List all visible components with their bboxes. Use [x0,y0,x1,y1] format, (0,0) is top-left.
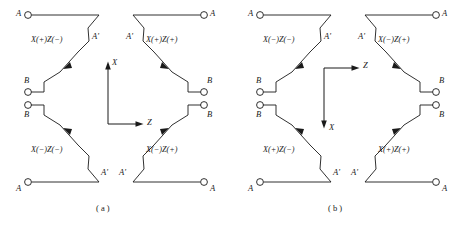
terminal-label-aprime-top-right: A' [358,32,365,41]
terminal-circle-b-tl [25,89,32,96]
terminal-circle-b-br [201,102,208,109]
terminal-circle-b-tl [257,89,264,96]
quadrant-label-top-left: X(−)Z(−) [263,36,295,44]
panel-b-drawing [232,0,464,200]
terminal-label-a-bottom-right: A [210,184,215,193]
quadrant-label-bottom-right: X(+)Z(+) [378,146,410,154]
terminal-label-a-bottom-left: A [16,184,21,193]
wire-path-tl [31,15,99,92]
terminal-circle-a-tl [25,12,32,19]
wire-path-tl [263,15,331,92]
panel-a: A A' A A' B B B B A A' A A' X(+)Z(−) X(+… [0,0,232,225]
terminal-label-b-mid-right-upper: B [207,76,212,85]
terminal-circle-a-bl [257,179,264,186]
axis-z-arrowhead [136,121,144,127]
terminal-circle-a-tr [433,12,440,19]
terminal-label-b-mid-right-lower: B [439,110,444,119]
terminal-label-b-mid-left-upper: B [24,76,29,85]
wire-path-br [133,105,201,182]
panel-b: A A' A A' B B B B A A' A A' X(−)Z(−) X(−… [232,0,464,225]
terminal-label-aprime-bottom-right: A' [119,168,126,177]
axis-x-arrowhead [105,62,111,70]
axis-x-arrowhead [321,121,327,129]
terminal-label-a-bottom-left: A [248,184,253,193]
terminal-label-b-mid-left-lower: B [24,110,29,119]
terminal-label-aprime-bottom-left: A' [101,168,108,177]
terminal-label-aprime-top-right: A' [126,32,133,41]
terminal-label-aprime-bottom-left: A' [333,168,340,177]
panel-a-caption: ( a ) [96,203,110,213]
axis-label-z: Z [363,61,368,70]
wire-path-tr [365,15,433,92]
wire-path-bl [31,105,99,182]
wire-path-tr [133,15,201,92]
wire-path-bl [263,105,331,182]
quadrant-label-bottom-left: X(+)Z(−) [263,146,295,154]
terminal-circle-b-br [433,102,440,109]
terminal-label-aprime-top-left: A' [324,32,331,41]
terminal-circle-b-bl [25,102,32,109]
axis-label-x: X [329,123,334,132]
panel-b-caption: ( b ) [328,203,342,213]
panel-a-drawing [0,0,232,200]
terminal-label-a-top-left: A [248,9,253,18]
terminal-label-a-top-right: A [442,9,447,18]
terminal-circle-a-tl [257,12,264,19]
quadrant-label-bottom-right: X(−)Z(+) [146,146,178,154]
terminal-label-b-mid-left-lower: B [256,110,261,119]
terminal-circle-b-tr [201,89,208,96]
terminal-label-a-top-left: A [16,9,21,18]
axis-label-x: X [112,58,117,67]
terminal-label-a-top-right: A [210,9,215,18]
axis-z-arrowhead [352,65,360,71]
terminal-label-a-bottom-right: A [442,184,447,193]
terminal-circle-b-bl [257,102,264,109]
quadrant-label-top-left: X(+)Z(−) [31,36,63,44]
quadrant-label-top-right: X(+)Z(+) [146,36,178,44]
terminal-label-aprime-bottom-right: A' [351,168,358,177]
terminal-circle-a-br [201,179,208,186]
axis-label-z: Z [147,118,152,127]
terminal-label-aprime-top-left: A' [92,32,99,41]
terminal-circle-a-bl [25,179,32,186]
terminal-label-b-mid-right-lower: B [207,110,212,119]
terminal-label-b-mid-left-upper: B [256,76,261,85]
quadrant-label-bottom-left: X(−)Z(−) [31,146,63,154]
terminal-circle-a-br [433,179,440,186]
figure-root: A A' A A' B B B B A A' A A' X(+)Z(−) X(+… [0,0,464,225]
terminal-circle-b-tr [433,89,440,96]
quadrant-label-top-right: X(−)Z(+) [378,36,410,44]
terminal-label-b-mid-right-upper: B [439,76,444,85]
terminal-circle-a-tr [201,12,208,19]
wire-path-br [365,105,433,182]
